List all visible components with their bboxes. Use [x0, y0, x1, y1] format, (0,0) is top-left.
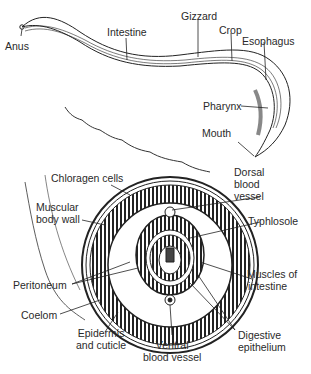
label-digestive-epithelium: Digestive epithelium: [238, 329, 286, 353]
label-line: Muscles of: [247, 268, 297, 280]
label-line: blood: [234, 178, 264, 190]
label-line: intestine: [247, 280, 297, 292]
label-crop: Crop: [219, 24, 242, 36]
label-muscular-body-wall: Muscular body wall: [36, 201, 80, 225]
label-line: vessel: [234, 190, 264, 202]
label-muscles-of-intestine: Muscles of intestine: [247, 268, 297, 292]
label-typhlosole: Typhlosole: [248, 215, 298, 227]
label-coelom: Coelom: [21, 309, 57, 321]
label-esophagus: Esophagus: [242, 35, 295, 47]
label-line: body wall: [36, 213, 80, 225]
label-line: and cuticle: [76, 339, 126, 351]
label-ventral-blood-vessel: Ventral blood vessel: [143, 339, 201, 363]
label-intestine: Intestine: [107, 26, 147, 38]
label-dorsal-blood-vessel: Dorsal blood vessel: [234, 166, 264, 202]
label-mouth: Mouth: [202, 127, 231, 139]
label-line: Epidermis: [76, 327, 126, 339]
label-gizzard: Gizzard: [181, 10, 217, 22]
label-chloragen-cells: Chloragen cells: [51, 172, 123, 184]
label-line: Digestive: [238, 329, 286, 341]
label-peritoneum: Peritoneum: [13, 279, 67, 291]
label-line: Dorsal: [234, 166, 264, 178]
label-line: epithelium: [238, 341, 286, 353]
label-epidermis-and-cuticle: Epidermis and cuticle: [76, 327, 126, 351]
label-pharynx: Pharynx: [203, 100, 242, 112]
label-line: Muscular: [36, 201, 80, 213]
label-line: blood vessel: [143, 351, 201, 363]
label-anus: Anus: [5, 40, 29, 52]
label-line: Ventral: [143, 339, 201, 351]
